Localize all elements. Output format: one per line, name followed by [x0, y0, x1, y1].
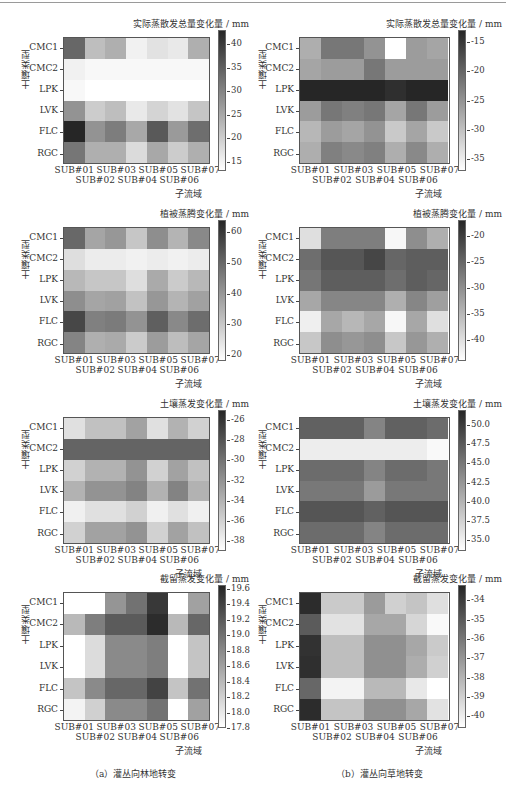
colorbar-title: 截留蒸发变化量 / mm — [413, 572, 502, 585]
heatmap-cell — [364, 614, 385, 635]
x-tick-label: SUB#04 — [118, 175, 157, 185]
x-tick-label: SUB#01 — [291, 722, 330, 732]
heatmap-cell — [105, 249, 126, 270]
heatmap-cell — [126, 270, 147, 291]
heatmap-cell — [147, 656, 168, 677]
heatmap-cell — [147, 522, 168, 543]
heatmap-cell — [85, 228, 106, 249]
heatmap-cell — [147, 80, 168, 101]
colorbar-tick-label: 40 — [231, 38, 242, 48]
heatmap-cell — [321, 80, 342, 101]
heatmap-cell — [85, 481, 106, 502]
heatmap-cell — [406, 614, 427, 635]
colorbar-tick-label: -32 — [231, 475, 245, 485]
heatmap-cell — [147, 228, 168, 249]
x-tick-label: SUB#03 — [97, 165, 136, 175]
heatmap-cell — [126, 121, 147, 142]
heatmap-cell — [406, 332, 427, 353]
heatmap-cell — [321, 228, 342, 249]
colorbar-tick-label: 20 — [231, 349, 242, 359]
x-tick-label: SUB#04 — [355, 175, 394, 185]
heatmap-cell — [147, 38, 168, 59]
y-tick — [60, 154, 63, 155]
heatmap-cell — [85, 38, 106, 59]
heatmap-cell — [147, 678, 168, 699]
heatmap-cell — [147, 249, 168, 270]
heatmap-cell — [147, 332, 168, 353]
x-tick-label: SUB#02 — [76, 175, 115, 185]
heatmap-cell — [147, 418, 168, 439]
heatmap-cell — [105, 142, 126, 163]
y-tick-label: RGC — [18, 528, 58, 538]
y-tick — [296, 322, 299, 323]
heatmap-cell — [406, 59, 427, 80]
y-tick — [60, 301, 63, 302]
heatmap-cell — [188, 121, 209, 142]
heatmap-cell — [85, 418, 106, 439]
y-tick — [60, 512, 63, 513]
x-tick-label: SUB#06 — [160, 175, 199, 185]
heatmap-cell — [64, 80, 85, 101]
heatmap-cell — [64, 121, 85, 142]
heatmap-cell — [385, 291, 406, 312]
heatmap-cell — [147, 121, 168, 142]
heatmap-cell — [105, 228, 126, 249]
y-tick — [60, 491, 63, 492]
x-tick-label: SUB#03 — [334, 722, 373, 732]
y-tick — [296, 280, 299, 281]
y-tick — [296, 646, 299, 647]
y-tick-label: FLC — [18, 316, 58, 326]
y-tick — [60, 449, 63, 450]
heatmap-cell — [168, 699, 189, 720]
heatmap-cell — [321, 142, 342, 163]
heatmap-cell — [188, 249, 209, 270]
colorbar-tick-label: 40 — [231, 288, 242, 298]
heatmap-cell — [364, 501, 385, 522]
heatmap-cell — [64, 501, 85, 522]
heatmap-cell — [385, 59, 406, 80]
heatmap-cell — [105, 460, 126, 481]
colorbar-tick-label: -25 — [471, 95, 485, 105]
y-tick-label: FLC — [254, 126, 294, 136]
heatmap-cell — [321, 439, 342, 460]
heatmap-panel-a-2: 植被蒸腾变化量 / mmCMC1CMC2LPKLVKFLCRGC土壤类型SUB#… — [0, 190, 253, 380]
heatmap-cell — [168, 418, 189, 439]
heatmap-cell — [406, 101, 427, 122]
heatmap-cell — [147, 501, 168, 522]
x-tick-label: SUB#05 — [139, 355, 178, 365]
heatmap-cell — [342, 439, 363, 460]
heatmap-cell — [385, 311, 406, 332]
heatmap-cell — [85, 311, 106, 332]
colorbar-tick-label: -40 — [471, 710, 485, 720]
heatmap-cell — [105, 699, 126, 720]
heatmap-cell — [364, 249, 385, 270]
heatmap-cell — [342, 522, 363, 543]
heatmap-cell — [188, 439, 209, 460]
heatmap-cell — [321, 59, 342, 80]
heatmap-cell — [427, 332, 448, 353]
heatmap-cell — [385, 439, 406, 460]
colorbar — [458, 220, 466, 361]
heatmap-panel-b-3: 土壤蒸发变化量 / mmCMC1CMC2LPKLVKFLCRGC土壤类型SUB#… — [253, 380, 506, 570]
x-tick-label: SUB#07 — [420, 355, 459, 365]
x-tick-label: SUB#04 — [355, 732, 394, 742]
colorbar-tick-label: -35 — [471, 614, 485, 624]
heatmap-cell — [385, 593, 406, 614]
y-tick — [296, 111, 299, 112]
y-tick — [296, 301, 299, 302]
y-tick-label: LVK — [254, 295, 294, 305]
heatmap-cell — [321, 614, 342, 635]
heatmap-cell — [147, 593, 168, 614]
y-tick — [60, 428, 63, 429]
x-tick-label: SUB#01 — [291, 545, 330, 555]
heatmap-cell — [300, 80, 321, 101]
heatmap-cell — [105, 291, 126, 312]
colorbar-tick-label: 60 — [231, 226, 242, 236]
heatmap-cell — [406, 699, 427, 720]
heatmap-cell — [342, 418, 363, 439]
heatmap-cell — [406, 270, 427, 291]
heatmap-cell — [85, 699, 106, 720]
x-tick-label: SUB#03 — [97, 545, 136, 555]
y-axis-title: 土壤类型 — [18, 429, 31, 469]
heatmap-cell — [188, 635, 209, 656]
